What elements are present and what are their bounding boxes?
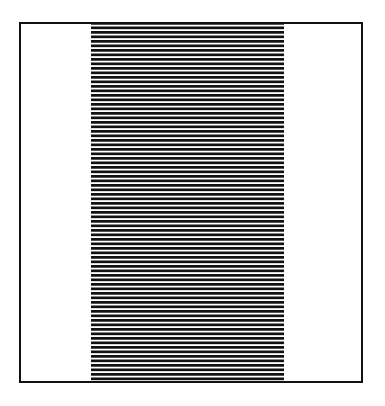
inner-white-field	[21, 24, 361, 381]
rectangular-border	[19, 22, 363, 383]
horizontal-stripe-band	[91, 24, 284, 381]
figure-root	[0, 0, 385, 406]
